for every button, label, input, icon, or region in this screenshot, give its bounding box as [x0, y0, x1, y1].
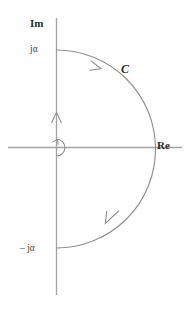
contour-figure: Im Re C jα – jα: [0, 0, 186, 312]
arrow-arc-lower-icon: [105, 211, 118, 223]
real-axis-label: Re: [157, 140, 170, 151]
tick-label-upper-j-alpha: jα: [30, 45, 38, 55]
contour-label-c: C: [121, 63, 129, 75]
contour-plot-canvas: [0, 0, 186, 312]
imaginary-axis-label: Im: [30, 18, 43, 29]
arrow-arc-upper-icon: [90, 61, 101, 70]
arrow-indentation-icon: [53, 139, 58, 144]
tick-label-lower-minus-j-alpha: – jα: [20, 244, 35, 254]
